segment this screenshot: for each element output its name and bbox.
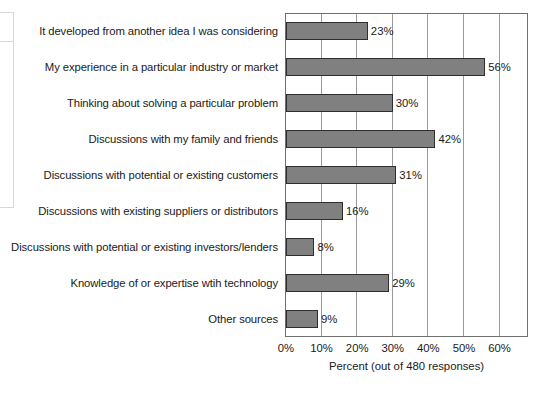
bar-row: Knowledge of or expertise wtih technolog…: [0, 265, 546, 301]
category-label: Other sources: [208, 301, 278, 337]
bar-row: Discussions with existing suppliers or d…: [0, 193, 546, 229]
bar-track: 29%: [286, 265, 528, 301]
category-label: Discussions with existing suppliers or d…: [38, 193, 278, 229]
category-label: Discussions with potential or existing c…: [44, 157, 278, 193]
bar-value-label: 16%: [343, 202, 369, 220]
bar-value-label: 42%: [435, 130, 461, 148]
x-tick-0%: 0%: [278, 340, 294, 356]
bar: [286, 94, 393, 112]
bar-track: 31%: [286, 157, 528, 193]
bar-track: 9%: [286, 301, 528, 337]
bar-track: 8%: [286, 229, 528, 265]
bar: [286, 310, 318, 328]
category-label: Knowledge of or expertise wtih technolog…: [70, 265, 278, 301]
bar-track: 23%: [286, 13, 528, 49]
bar-row: It developed from another idea I was con…: [0, 13, 546, 49]
bar: [286, 130, 435, 148]
bar-row: Discussions with my family and friends42…: [0, 121, 546, 157]
bar-row: Thinking about solving a particular prob…: [0, 85, 546, 121]
category-label: Discussions with my family and friends: [88, 121, 278, 157]
bar-track: 30%: [286, 85, 528, 121]
x-tick-30%: 30%: [381, 340, 404, 356]
bar-value-label: 31%: [396, 166, 422, 184]
bar: [286, 202, 343, 220]
bar-value-label: 9%: [318, 310, 337, 328]
bar: [286, 22, 368, 40]
bar: [286, 166, 396, 184]
bar: [286, 274, 389, 292]
category-label: It developed from another idea I was con…: [39, 13, 278, 49]
bar-value-label: 29%: [389, 274, 415, 292]
x-tick-40%: 40%: [417, 340, 440, 356]
bar-row: Other sources9%: [0, 301, 546, 337]
bar-track: 42%: [286, 121, 528, 157]
x-tick-60%: 60%: [488, 340, 511, 356]
x-axis-tick-labels: 0%10%20%30%40%50%60%: [285, 340, 528, 356]
horizontal-bar-chart: It developed from another idea I was con…: [0, 0, 546, 393]
x-tick-10%: 10%: [310, 340, 333, 356]
bar-value-label: 8%: [314, 238, 333, 256]
bar-row: My experience in a particular industry o…: [0, 49, 546, 85]
bar-row: Discussions with potential or existing c…: [0, 157, 546, 193]
category-label: My experience in a particular industry o…: [45, 49, 278, 85]
bar-row: Discussions with potential or existing i…: [0, 229, 546, 265]
bar-value-label: 23%: [368, 22, 394, 40]
bar-value-label: 56%: [485, 58, 511, 76]
x-tick-50%: 50%: [453, 340, 476, 356]
bar-value-label: 30%: [393, 94, 419, 112]
category-label: Discussions with potential or existing i…: [11, 229, 278, 265]
x-axis-title: Percent (out of 480 responses): [285, 360, 528, 372]
category-label: Thinking about solving a particular prob…: [67, 85, 278, 121]
x-tick-20%: 20%: [346, 340, 369, 356]
bar-track: 56%: [286, 49, 528, 85]
bar: [286, 238, 314, 256]
bar: [286, 58, 485, 76]
bar-track: 16%: [286, 193, 528, 229]
